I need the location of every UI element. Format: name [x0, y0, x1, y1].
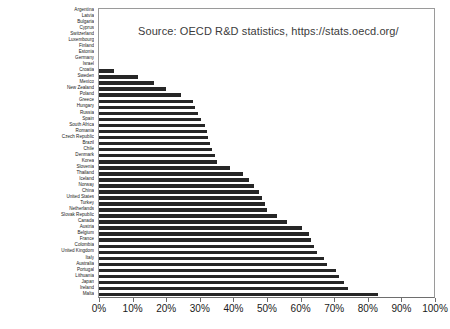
x-axis-tick — [133, 298, 134, 302]
x-axis-tick — [334, 298, 335, 302]
bar — [99, 202, 265, 206]
bar-chart: Source: OECD R&D statistics, https://sta… — [0, 0, 450, 329]
x-axis-tick-label: 0% — [92, 303, 106, 314]
bar — [99, 184, 254, 188]
bar — [99, 208, 267, 212]
x-axis-tick — [301, 298, 302, 302]
bar — [99, 142, 210, 146]
bar — [99, 263, 327, 267]
bar — [99, 257, 324, 261]
x-axis-tick-label: 100% — [422, 303, 448, 314]
bar — [99, 232, 309, 236]
bar — [99, 154, 215, 158]
x-axis-tick — [99, 298, 100, 302]
x-axis-tick — [401, 298, 402, 302]
bar — [99, 172, 243, 176]
bar-rows: ArgentinaLatviaBulgariaCyprusSwitzerland… — [0, 8, 450, 298]
bar — [99, 293, 378, 297]
bar — [99, 136, 208, 140]
bar — [99, 124, 205, 128]
bar — [99, 196, 262, 200]
bar — [99, 251, 317, 255]
bar — [99, 226, 302, 230]
x-axis-tick-label: 40% — [223, 303, 243, 314]
x-axis-tick — [368, 298, 369, 302]
bar — [99, 275, 339, 279]
x-axis-tick-label: 80% — [358, 303, 378, 314]
bar — [99, 118, 201, 122]
bar — [99, 112, 198, 116]
bar — [99, 238, 311, 242]
bar — [99, 106, 195, 110]
bar — [99, 178, 249, 182]
bar-category-label: Malta — [2, 291, 94, 297]
x-axis-tick — [200, 298, 201, 302]
bar — [99, 281, 344, 285]
x-axis-tick — [435, 298, 436, 302]
bar — [99, 287, 348, 291]
bar — [99, 245, 314, 249]
bar — [99, 190, 259, 194]
bar — [99, 87, 166, 91]
bar — [99, 148, 212, 152]
x-axis: 0%10%20%30%40%50%60%70%80%90%100% — [98, 298, 435, 326]
x-axis-tick — [267, 298, 268, 302]
x-axis-tick-label: 70% — [324, 303, 344, 314]
bar — [99, 214, 277, 218]
x-axis-tick-label: 50% — [257, 303, 277, 314]
x-axis-tick-label: 60% — [291, 303, 311, 314]
bar — [99, 75, 138, 79]
bar — [99, 220, 287, 224]
bar — [99, 69, 114, 73]
bar — [99, 269, 336, 273]
bar — [99, 93, 181, 97]
bar — [99, 166, 230, 170]
x-axis-tick-label: 20% — [156, 303, 176, 314]
bar — [99, 160, 217, 164]
bar — [99, 81, 154, 85]
bar — [99, 100, 193, 104]
x-axis-tick — [233, 298, 234, 302]
x-axis-tick — [166, 298, 167, 302]
x-axis-tick-label: 90% — [391, 303, 411, 314]
x-axis-tick-label: 30% — [190, 303, 210, 314]
bar — [99, 130, 207, 134]
x-axis-tick-label: 10% — [123, 303, 143, 314]
